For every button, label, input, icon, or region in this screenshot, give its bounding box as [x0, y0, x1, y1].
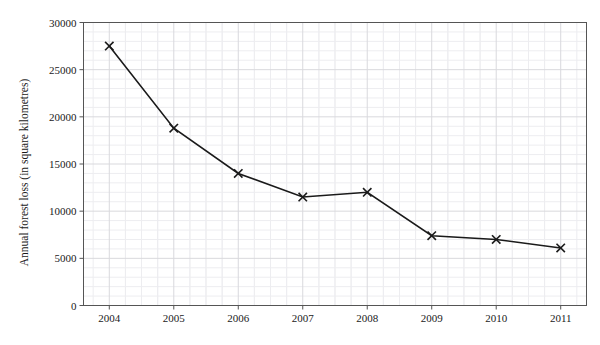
- x-tick-marks: [109, 306, 560, 310]
- svg-text:25000: 25000: [49, 64, 77, 76]
- svg-text:2006: 2006: [227, 312, 250, 324]
- svg-text:30000: 30000: [49, 17, 77, 29]
- svg-text:2009: 2009: [421, 312, 444, 324]
- svg-text:2007: 2007: [292, 312, 315, 324]
- svg-text:0: 0: [71, 300, 77, 312]
- svg-text:2008: 2008: [356, 312, 379, 324]
- svg-text:5000: 5000: [55, 252, 78, 264]
- y-tick-labels: 050001000015000200002500030000: [49, 17, 77, 312]
- y-tick-marks: [80, 23, 84, 306]
- svg-text:2011: 2011: [550, 312, 572, 324]
- forest-loss-line-chart: Annual forest loss (in square kilometres…: [0, 0, 600, 345]
- svg-text:20000: 20000: [49, 111, 77, 123]
- plot-area: 050001000015000200002500030000 200420052…: [0, 0, 600, 345]
- svg-text:2005: 2005: [163, 312, 186, 324]
- x-tick-labels: 20042005200620072008200920102011: [98, 312, 571, 324]
- svg-text:15000: 15000: [49, 158, 77, 170]
- svg-text:2010: 2010: [485, 312, 508, 324]
- svg-text:2004: 2004: [98, 312, 121, 324]
- svg-text:10000: 10000: [49, 205, 77, 217]
